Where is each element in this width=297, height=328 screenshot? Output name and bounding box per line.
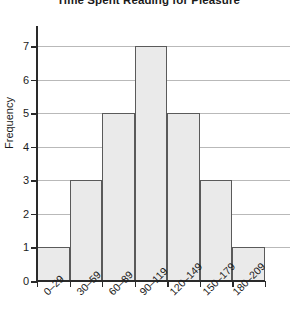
- y-tick-mark-7: [31, 46, 38, 48]
- y-tick-mark-5: [31, 113, 38, 115]
- bar-90-119: [135, 46, 168, 281]
- y-tick-label-7: 7: [7, 40, 29, 52]
- y-axis-title: Frequency: [3, 78, 15, 168]
- x-tick-mark-7: [265, 281, 266, 287]
- y-tick-label-0: 0: [7, 275, 29, 287]
- y-tick-mark-2: [31, 214, 38, 216]
- x-tick-mark-0: [37, 281, 38, 287]
- y-tick-label-3: 3: [7, 174, 29, 186]
- plot-area: [37, 46, 290, 281]
- y-tick-mark-4: [31, 147, 38, 149]
- x-tick-mark-2: [102, 281, 103, 287]
- y-tick-mark-3: [31, 180, 38, 182]
- bar-30-59: [70, 180, 103, 281]
- x-tick-mark-1: [70, 281, 71, 287]
- y-tick-label-2: 2: [7, 208, 29, 220]
- y-tick-mark-1: [31, 247, 38, 249]
- bar-120-149: [167, 113, 200, 281]
- chart-title: Time Spent Reading for Pleasure: [0, 0, 297, 6]
- y-axis-line: [36, 26, 38, 282]
- y-tick-mark-6: [31, 80, 38, 82]
- histogram-chart: Time Spent Reading for Pleasure 7 6 5 4 …: [0, 0, 297, 328]
- bar-60-89: [102, 113, 135, 281]
- x-tick-mark-3: [135, 281, 136, 287]
- y-tick-label-1: 1: [7, 241, 29, 253]
